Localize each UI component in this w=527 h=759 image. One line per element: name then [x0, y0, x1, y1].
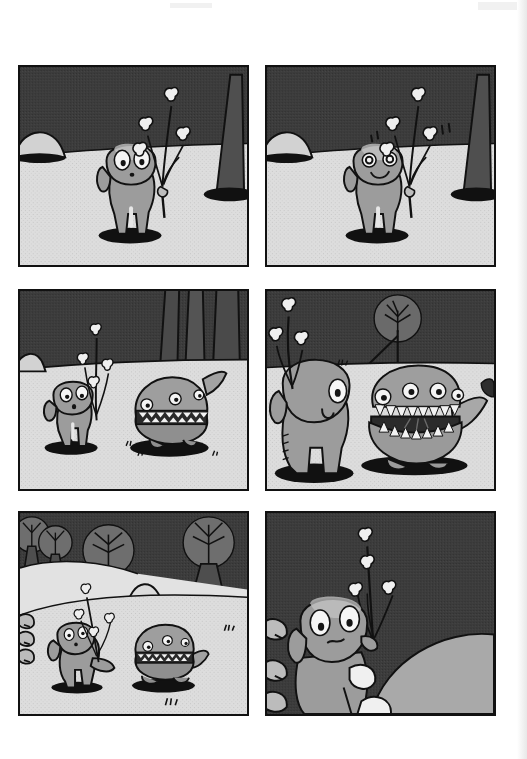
leg-gap-highlight: [71, 422, 74, 440]
pupil-left: [121, 160, 126, 166]
comic-panel-3: [18, 289, 249, 491]
creature-shadow: [346, 228, 409, 244]
leg-gap-highlight: [129, 206, 133, 228]
panel-5-art: [20, 513, 247, 714]
pupil-left: [318, 623, 324, 631]
panel-3-art: [20, 291, 247, 489]
creature-eye-left: [114, 150, 130, 170]
bush-left: [267, 619, 287, 711]
pupil: [335, 389, 341, 397]
comic-panel-4: [265, 289, 496, 491]
creature-eye-left: [362, 153, 376, 167]
comic-panel-2: [265, 65, 496, 267]
comic-panel-5: [18, 511, 249, 716]
creature-mouth: [72, 404, 76, 409]
panel-2-art: [267, 67, 494, 265]
creature-shadow: [99, 228, 162, 244]
scan-artifact-right-edge: [517, 0, 527, 759]
scan-artifact-top-right: [478, 2, 518, 10]
scan-artifact-top-center: [170, 3, 212, 8]
comic-panel-6: [265, 511, 496, 716]
pupil-left: [65, 395, 69, 399]
creature-mouth: [130, 173, 135, 177]
comic-page: [0, 0, 527, 759]
comic-panel-1: [18, 65, 249, 267]
pupil-right: [80, 394, 84, 398]
panel-4-art: [267, 291, 494, 489]
creature-shadow: [275, 464, 354, 484]
creature-eye-left: [310, 610, 330, 635]
leg-gap-highlight: [376, 206, 380, 228]
creature-shadow: [51, 682, 102, 694]
pupil-right: [346, 619, 352, 627]
panel-1-art: [20, 67, 247, 265]
creature-mouth: [74, 642, 78, 646]
pupil-right: [139, 159, 144, 165]
creature-head: [53, 382, 92, 415]
bush-left: [20, 614, 34, 663]
creature-eye-left: [60, 388, 72, 402]
panel-6-art: [267, 513, 494, 714]
